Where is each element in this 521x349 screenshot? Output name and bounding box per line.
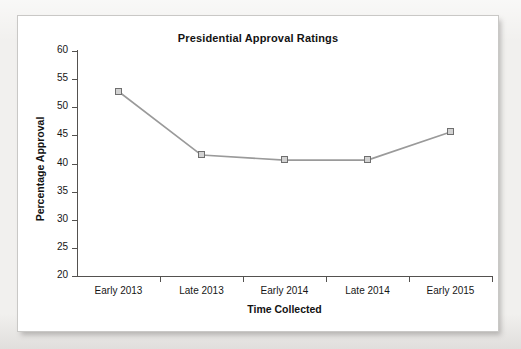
plot-area: 605550454035302520 Early 2013Late 2013Ea… <box>18 16 498 331</box>
x-axis-title: Time Collected <box>77 303 492 315</box>
data-point-marker <box>281 156 288 163</box>
scanned-page: Presidential Approval Ratings 6055504540… <box>0 0 521 349</box>
data-point-marker <box>198 151 205 158</box>
data-point-marker <box>115 88 122 95</box>
data-point-marker <box>447 128 454 135</box>
data-point-marker <box>364 156 371 163</box>
figure-card: Presidential Approval Ratings 6055504540… <box>17 15 499 332</box>
series-line <box>18 16 498 331</box>
y-axis-title: Percentage Approval <box>34 94 46 244</box>
